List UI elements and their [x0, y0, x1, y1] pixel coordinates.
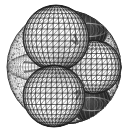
figure-container: Wireframe mesh rendering of a multi-lobe… — [0, 0, 128, 135]
wireframe-mesh-figure — [0, 0, 128, 135]
